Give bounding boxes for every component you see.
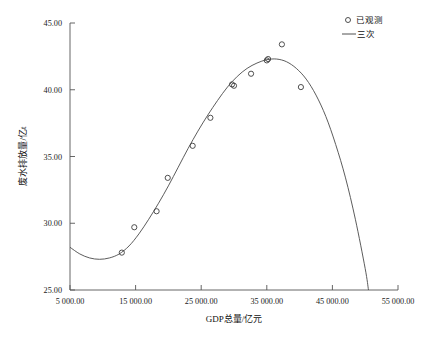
observed-point-marker xyxy=(154,209,159,214)
observed-point-marker xyxy=(165,175,170,180)
x-tick-label: 55 000.00 xyxy=(382,297,415,306)
chart-legend: 已观测 三次 xyxy=(342,15,383,39)
y-tick-label: 45.00 xyxy=(44,19,62,28)
y-tick-label: 30.00 xyxy=(44,219,62,228)
observed-point-marker xyxy=(248,71,253,76)
scatter-plot-canvas: 25.0030.0035.0040.0045.00 5 000.0015 000… xyxy=(0,0,431,346)
observed-point-marker xyxy=(132,225,137,230)
chart-figure: 25.0030.0035.0040.0045.00 5 000.0015 000… xyxy=(0,0,431,346)
x-tick-label: 5 000.00 xyxy=(56,297,85,306)
x-tick-label: 15 000.00 xyxy=(119,297,152,306)
cubic-fit-curve xyxy=(70,59,368,290)
legend-marker-observed xyxy=(346,18,351,23)
x-axis-ticks: 5 000.0015 000.0025 000.0035 000.0045 00… xyxy=(56,285,415,306)
y-tick-label: 25.00 xyxy=(44,286,62,295)
legend-label-cubic: 三次 xyxy=(357,29,375,39)
legend-label-observed: 已观测 xyxy=(356,15,383,25)
y-axis-title: 废水排放量/亿t xyxy=(17,126,28,186)
x-tick-label: 25 000.00 xyxy=(185,297,218,306)
x-axis-title: GDP总量/亿元 xyxy=(206,313,263,324)
axes-group xyxy=(70,23,398,290)
observed-data-points xyxy=(119,42,303,255)
y-tick-label: 40.00 xyxy=(44,86,62,95)
observed-point-marker xyxy=(279,42,284,47)
observed-point-marker xyxy=(298,84,303,89)
observed-point-marker xyxy=(190,143,195,148)
observed-point-marker xyxy=(208,115,213,120)
y-tick-label: 35.00 xyxy=(44,153,62,162)
x-tick-label: 35 000.00 xyxy=(250,297,283,306)
x-tick-label: 45 000.00 xyxy=(316,297,349,306)
